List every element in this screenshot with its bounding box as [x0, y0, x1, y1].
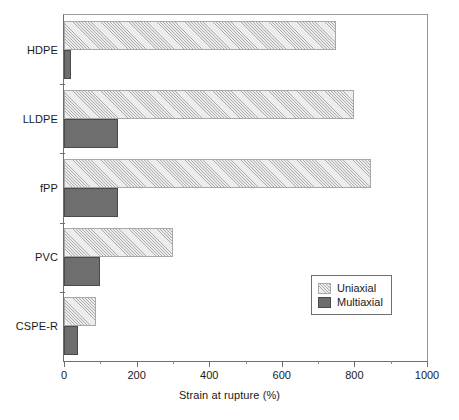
x-tick-major [354, 361, 355, 367]
x-tick-major [209, 361, 210, 367]
bar-cspe-r-uniaxial [64, 297, 96, 326]
bar-fpp-uniaxial [64, 159, 371, 188]
x-tick-label-200: 200 [127, 369, 145, 381]
x-tick-major [64, 361, 65, 367]
y-tick [60, 84, 65, 85]
y-axis-label-pvc: PVC [4, 251, 58, 263]
y-axis-label-lldpe: LLDPE [4, 113, 58, 125]
legend-item-multiaxial: Multiaxial [318, 295, 383, 309]
x-axis-title: Strain at rupture (%) [0, 389, 459, 401]
chart-figure: HDPELLDPEfPPPVCCSPE-R 02004006008001000 … [0, 0, 459, 420]
x-tick-minor [246, 361, 247, 364]
x-tick-major [427, 361, 428, 367]
bar-cspe-r-multiaxial [64, 326, 78, 355]
bar-pvc-multiaxial [64, 257, 100, 286]
bar-hdpe-multiaxial [64, 50, 71, 79]
x-tick-minor [391, 361, 392, 364]
legend-item-uniaxial: Uniaxial [318, 281, 383, 295]
bar-hdpe-uniaxial [64, 21, 336, 50]
bar-lldpe-uniaxial [64, 90, 354, 119]
x-tick-label-600: 600 [273, 369, 291, 381]
y-tick [60, 292, 65, 293]
x-tick-label-0: 0 [61, 369, 67, 381]
x-tick-label-800: 800 [345, 369, 363, 381]
uniaxial-hatch-swatch-icon [318, 283, 331, 294]
y-axis-label-fpp: fPP [4, 182, 58, 194]
legend-label-uniaxial: Uniaxial [337, 283, 376, 294]
bar-lldpe-multiaxial [64, 119, 118, 148]
multiaxial-solid-swatch-icon [318, 297, 331, 308]
legend-label-multiaxial: Multiaxial [337, 297, 383, 308]
y-tick [60, 223, 65, 224]
chart-legend: Uniaxial Multiaxial [311, 275, 392, 315]
x-tick-minor [100, 361, 101, 364]
bar-pvc-uniaxial [64, 228, 173, 257]
x-tick-label-1000: 1000 [415, 369, 439, 381]
y-axis-label-hdpe: HDPE [4, 44, 58, 56]
y-tick [60, 153, 65, 154]
x-tick-major [282, 361, 283, 367]
x-tick-minor [173, 361, 174, 364]
x-tick-minor [318, 361, 319, 364]
y-axis-label-cspe-r: CSPE-R [4, 320, 58, 332]
bar-fpp-multiaxial [64, 188, 118, 217]
x-tick-label-400: 400 [200, 369, 218, 381]
x-tick-major [137, 361, 138, 367]
